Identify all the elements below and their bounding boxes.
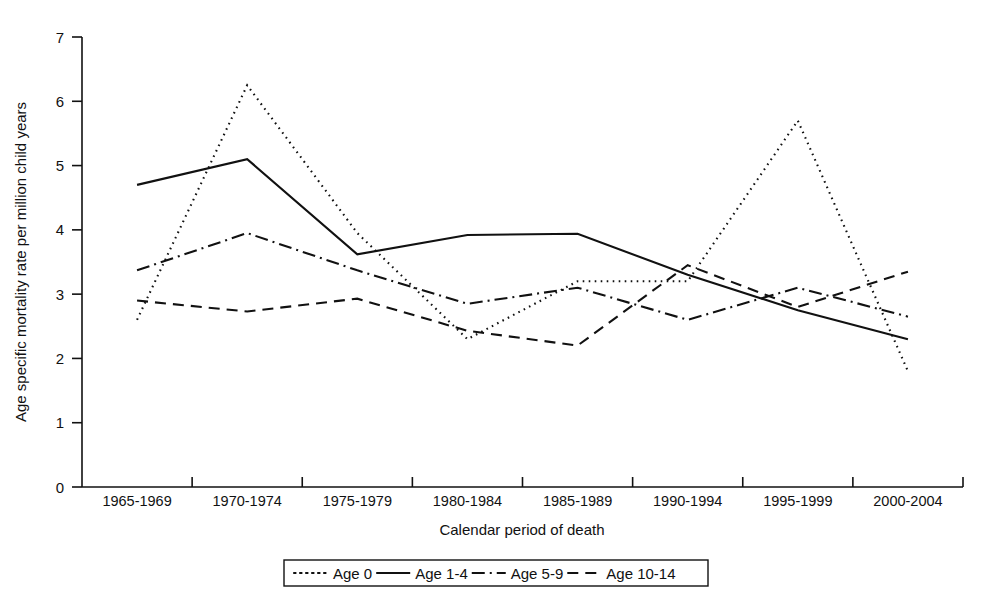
y-tick-labels: 01234567 [56,29,64,496]
y-tick-marks [72,37,82,487]
chart-figure: 01234567 1965-19691970-19741975-19791980… [0,0,987,609]
y-tick-label: 5 [56,157,64,174]
y-tick-label: 7 [56,29,64,46]
x-tick-label: 1965-1969 [102,493,171,509]
legend-group: Age 0Age 1-4Age 5-9Age 10-14 [294,565,676,582]
y-tick-label: 0 [56,479,64,496]
legend-label-age-5-9: Age 5-9 [511,565,564,582]
line-chart-svg: 01234567 1965-19691970-19741975-19791980… [0,0,987,609]
y-tick-label: 1 [56,414,64,431]
series-line-age-0 [137,85,908,371]
x-tick-label: 1995-1999 [763,493,832,509]
y-tick-label: 3 [56,286,64,303]
x-tick-label: 2000-2004 [873,493,942,509]
legend-label-age-10-14: Age 10-14 [606,565,675,582]
x-tick-label: 1970-1974 [213,493,282,509]
series-line-age-5-9 [137,233,908,320]
x-tick-label: 1975-1979 [323,493,392,509]
y-axis-title: Age specific mortality rate per million … [12,102,29,422]
x-tick-marks [192,477,853,487]
legend-label-age-1-4: Age 1-4 [415,565,468,582]
x-tick-label: 1985-1989 [543,493,612,509]
data-series-group [137,85,908,371]
y-tick-label: 4 [56,221,64,238]
x-tick-labels: 1965-19691970-19741975-19791980-19841985… [102,493,942,509]
y-tick-label: 2 [56,350,64,367]
y-tick-label: 6 [56,93,64,110]
x-tick-label: 1990-1994 [653,493,722,509]
x-axis-title: Calendar period of death [439,521,604,538]
series-line-age-10-14 [137,265,908,345]
x-tick-label: 1980-1984 [433,493,502,509]
series-line-age-1-4 [137,159,908,339]
legend-label-age-0: Age 0 [333,565,372,582]
